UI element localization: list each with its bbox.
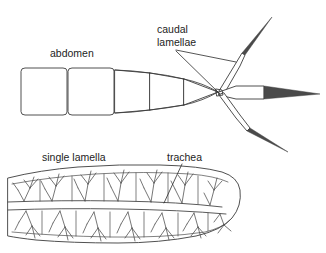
biology-diagram-svg: abdomen caudal lamellae single lamella t… <box>0 0 326 253</box>
label-caudal-line2: lamellae <box>157 36 196 48</box>
label-caudal-line1: caudal <box>157 23 188 35</box>
abdomen-segment-2 <box>68 68 114 115</box>
abdomen-segment-5 <box>184 79 218 105</box>
lamella-outline <box>8 165 240 243</box>
label-abdomen: abdomen <box>50 47 94 59</box>
label-single-lamella: single lamella <box>42 151 106 163</box>
abdomen-segment-3 <box>115 70 150 113</box>
label-trachea: trachea <box>167 151 202 163</box>
abdomen-segment-4 <box>150 73 184 110</box>
abdomen-outline-group <box>21 68 218 115</box>
upper-caudal-lamella-tip <box>242 17 272 55</box>
caudal-lamellae-group <box>216 17 320 152</box>
abdomen-segment-1 <box>21 68 67 115</box>
median-caudal-lamella-tip <box>264 86 320 99</box>
lower-caudal-lamella-tip <box>247 128 288 152</box>
single-lamella-detail-group <box>8 164 240 243</box>
figure-root: abdomen caudal lamellae single lamella t… <box>0 0 326 253</box>
